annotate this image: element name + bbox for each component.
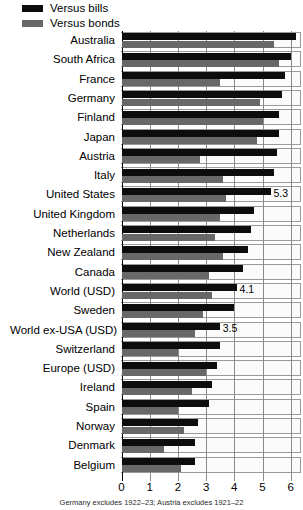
x-tick-1: 1 <box>142 481 158 494</box>
category-label-spain: Spain <box>10 399 118 415</box>
category-label-south-africa: South Africa <box>10 51 118 67</box>
category-label-japan: Japan <box>10 129 118 145</box>
legend-item-versus-bonds: Versus bonds <box>22 16 182 31</box>
x-tick-5: 5 <box>255 481 271 494</box>
x-axis: 0123456 <box>0 481 303 497</box>
category-label-belgium: Belgium <box>10 457 118 473</box>
legend-item-versus-bills: Versus bills <box>22 1 182 16</box>
category-label-united-states: United States <box>10 186 118 202</box>
plot-area: 5.34.13.5 AustraliaSouth AfricaFranceGer… <box>0 31 303 481</box>
x-tick-4: 4 <box>226 481 242 494</box>
category-label-finland: Finland <box>10 109 118 125</box>
x-tick-2: 2 <box>170 481 186 494</box>
legend-swatch-versus-bills <box>22 5 43 12</box>
equity-risk-premium-chart: Versus bills Versus bonds 5.34.13.5 Aust… <box>0 0 303 510</box>
category-label-world-ex-usa-usd: World ex-USA (USD) <box>10 322 118 338</box>
category-label-world-usd: World (USD) <box>10 283 118 299</box>
chart-footnote: Germany excludes 1922–23; Austria exclud… <box>0 498 303 507</box>
category-label-sweden: Sweden <box>10 302 118 318</box>
category-label-switzerland: Switzerland <box>10 341 118 357</box>
legend-label-versus-bills: Versus bills <box>50 3 108 15</box>
category-label-australia: Australia <box>10 32 118 48</box>
legend-label-versus-bonds: Versus bonds <box>50 18 120 30</box>
category-label-denmark: Denmark <box>10 437 118 453</box>
x-tick-0: 0 <box>114 481 130 494</box>
category-label-europe-usd: Europe (USD) <box>10 360 118 376</box>
category-label-germany: Germany <box>10 90 118 106</box>
category-label-new-zealand: New Zealand <box>10 244 118 260</box>
category-label-netherlands: Netherlands <box>10 225 118 241</box>
category-label-norway: Norway <box>10 418 118 434</box>
x-tick-6: 6 <box>283 481 299 494</box>
category-label-united-kingdom: United Kingdom <box>10 206 118 222</box>
chart-legend: Versus bills Versus bonds <box>22 1 182 31</box>
category-label-canada: Canada <box>10 264 118 280</box>
x-tick-3: 3 <box>198 481 214 494</box>
category-label-france: France <box>10 71 118 87</box>
legend-swatch-versus-bonds <box>22 20 43 27</box>
category-label-italy: Italy <box>10 167 118 183</box>
category-label-austria: Austria <box>10 148 118 164</box>
category-label-ireland: Ireland <box>10 379 118 395</box>
